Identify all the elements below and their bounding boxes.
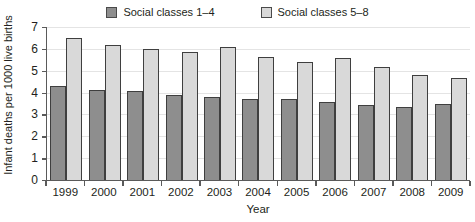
legend-label-social-classes-1-4: Social classes 1–4 (123, 7, 214, 18)
bar-group (432, 27, 470, 180)
bar-group (355, 27, 393, 180)
bar-group (316, 27, 354, 180)
x-tick-label: 2003 (200, 186, 239, 198)
bar (451, 78, 467, 180)
bar (335, 58, 351, 180)
bar-chart: Social classes 1–4 Social classes 5–8 In… (0, 0, 475, 222)
dark-swatch-icon (106, 7, 117, 18)
bar-group (239, 27, 277, 180)
light-swatch-icon (261, 7, 272, 18)
x-tick-label: 2004 (239, 186, 278, 198)
bar-group (162, 27, 200, 180)
bar-group (278, 27, 316, 180)
y-tick-label: 4 (31, 86, 38, 100)
plot-area: 01234567 (46, 27, 470, 181)
y-tick-label: 2 (31, 129, 38, 143)
bar (319, 102, 335, 180)
bar (281, 99, 297, 180)
legend-item-social-classes-5-8: Social classes 5–8 (261, 7, 369, 18)
bar-group (124, 27, 162, 180)
x-tick-label: 2007 (354, 186, 393, 198)
legend-item-social-classes-1-4: Social classes 1–4 (106, 7, 214, 18)
y-axis-title-text: Infant deaths per 1000 live births (2, 15, 14, 175)
bar (166, 95, 182, 180)
bar (358, 105, 374, 180)
x-tick-label: 2009 (431, 186, 470, 198)
bar (435, 104, 451, 180)
bar (127, 91, 143, 180)
bar (412, 75, 428, 180)
bar (66, 38, 82, 180)
bar (297, 62, 313, 180)
y-tick-label: 6 (31, 42, 38, 56)
bar-group (201, 27, 239, 180)
x-tick-label: 2000 (85, 186, 124, 198)
x-axis-labels: 1999200020012002200320042005200620072008… (46, 186, 470, 198)
x-tick-label: 2002 (162, 186, 201, 198)
chart-legend: Social classes 1–4 Social classes 5–8 (0, 2, 475, 22)
bar-group (85, 27, 123, 180)
bar (374, 67, 390, 180)
bar-group (393, 27, 431, 180)
legend-label-social-classes-5-8: Social classes 5–8 (278, 7, 369, 18)
x-tick-label: 2001 (123, 186, 162, 198)
x-tick-label: 2006 (316, 186, 355, 198)
y-tick-label: 3 (31, 107, 38, 121)
y-tick-label: 7 (31, 20, 38, 34)
bar (143, 49, 159, 180)
x-tick-label: 2008 (393, 186, 432, 198)
plot-wrapper: 01234567 (46, 27, 470, 181)
y-tick-label: 5 (31, 64, 38, 78)
x-tick-label: 2005 (277, 186, 316, 198)
bar (182, 52, 198, 180)
x-tick-label: 1999 (46, 186, 85, 198)
bar (105, 45, 121, 181)
x-axis-title: Year (46, 203, 470, 215)
bar-series-container (47, 27, 470, 180)
bar (220, 47, 236, 180)
y-tick-label: 0 (31, 173, 38, 187)
y-axis-title: Infant deaths per 1000 live births (0, 0, 16, 190)
bar (204, 97, 220, 180)
bar (89, 90, 105, 180)
bar (396, 107, 412, 180)
y-tick-label: 1 (31, 151, 38, 165)
bar (242, 99, 258, 180)
bar (258, 57, 274, 180)
bar (50, 86, 66, 180)
bar-group (47, 27, 85, 180)
